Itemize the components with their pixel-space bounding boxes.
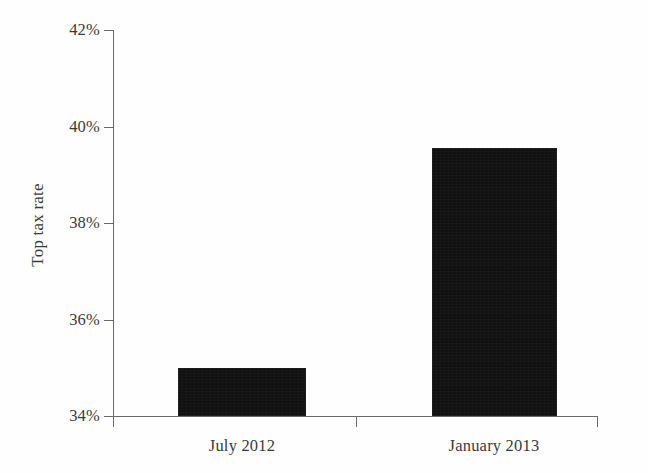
x-tick-mark-left bbox=[113, 416, 114, 427]
y-axis-line bbox=[113, 30, 114, 417]
x-tick-mark-middle bbox=[356, 416, 357, 427]
x-category-label-january-2013: January 2013 bbox=[449, 436, 540, 456]
x-axis-line bbox=[113, 416, 597, 417]
y-tick-label-40: 40% bbox=[40, 117, 100, 137]
y-tick-label-42: 42% bbox=[40, 20, 100, 40]
bar-july-2012 bbox=[178, 368, 306, 416]
y-tick-label-36: 36% bbox=[40, 310, 100, 330]
y-tick-label-38: 38% bbox=[40, 213, 100, 233]
x-category-label-july-2012: July 2012 bbox=[209, 436, 275, 456]
bar-chart: Top tax rate 42% 40% 38% 36% 34% July 20… bbox=[0, 0, 648, 473]
bar-january-2013 bbox=[432, 148, 557, 416]
x-tick-mark-right bbox=[597, 416, 598, 427]
y-tick-label-34: 34% bbox=[40, 406, 100, 426]
